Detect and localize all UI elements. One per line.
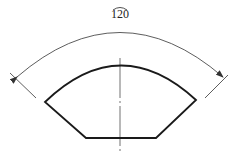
arc-length-symbol-icon [0, 0, 236, 166]
dimension-label: 120 [107, 7, 133, 22]
drawing-canvas: 120 [0, 0, 236, 166]
